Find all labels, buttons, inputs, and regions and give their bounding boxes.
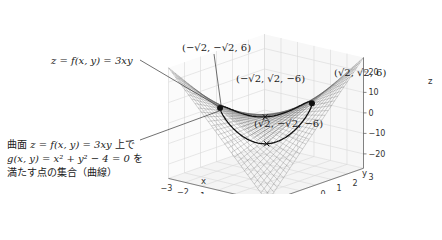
y-tick: 0 <box>321 190 326 194</box>
point-label-pos-neg: (√2, −√2, −6) <box>254 118 323 129</box>
point-label-pos-pos: (√2, √2, 6) <box>334 67 386 78</box>
x-tick: −2 <box>177 188 189 194</box>
y-axis-label: y <box>362 168 367 178</box>
z-tick: −10 <box>369 129 386 138</box>
point-label-neg-pos: (−√2, √2, −6) <box>236 73 305 84</box>
curve-label-line-2: g(x, y) = x² + y² − 4 = 0 を <box>7 152 143 166</box>
point-label-neg-neg: (−√2, −√2, 6) <box>182 42 251 53</box>
z-tick: 10 <box>369 88 379 97</box>
y-tick: 2 <box>353 179 358 188</box>
y-tick: 3 <box>369 173 374 182</box>
y-tick: 1 <box>337 184 342 193</box>
constraint-curve-label: 曲面 z = f(x, y) = 3xy 上で g(x, y) = x² + y… <box>7 138 143 180</box>
surface-equation-label: z = f(x, y) = 3xy <box>51 54 133 68</box>
x-tick: −1 <box>194 192 206 194</box>
z-tick: −20 <box>369 150 386 159</box>
curve-label-line-1: 曲面 z = f(x, y) = 3xy 上で <box>7 138 143 152</box>
z-tick: 0 <box>369 109 374 118</box>
x-axis-label: x <box>201 176 206 186</box>
extremum-max-marker <box>309 100 315 106</box>
z-axis-label: z <box>428 76 433 86</box>
x-tick: −3 <box>161 184 173 193</box>
curve-label-line-3: 満たす点の集合（曲線） <box>7 166 143 180</box>
